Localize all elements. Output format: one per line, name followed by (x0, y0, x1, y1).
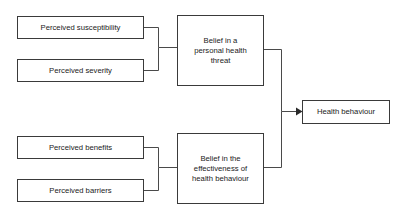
node-perceived-benefits[interactable]: Perceived benefits (18, 137, 144, 159)
node-perceived-barriers[interactable]: Perceived barriers (18, 180, 144, 202)
node-label-belief-effectiveness-line1: Belief in the (200, 154, 240, 163)
health-belief-model-diagram: Perceived susceptibility Perceived sever… (0, 0, 405, 224)
node-label-perceived-barriers: Perceived barriers (49, 186, 112, 195)
arrow-head-icon (296, 108, 303, 116)
node-label-perceived-benefits: Perceived benefits (49, 143, 112, 152)
node-health-behaviour[interactable]: Health behaviour (303, 101, 390, 124)
connector-severity-to-threat (144, 48, 159, 71)
node-label-perceived-severity: Perceived severity (49, 66, 112, 75)
node-perceived-severity[interactable]: Perceived severity (18, 60, 144, 82)
node-belief-effectiveness-health-behaviour[interactable]: Belief in the effectiveness of health be… (178, 134, 264, 204)
node-label-belief-effectiveness-line2: effectiveness of (194, 164, 248, 173)
node-label-belief-effectiveness-line3: health behaviour (192, 174, 249, 183)
node-label-perceived-susceptibility: Perceived susceptibility (41, 23, 121, 32)
node-perceived-susceptibility[interactable]: Perceived susceptibility (18, 17, 144, 39)
connector-effectiveness-to-behaviour (264, 112, 282, 168)
node-belief-personal-health-threat[interactable]: Belief in a personal health threat (178, 16, 264, 86)
connector-benefits-to-effectiveness (144, 148, 159, 168)
node-label-health-behaviour: Health behaviour (317, 107, 376, 116)
node-label-belief-threat-line3: threat (211, 56, 232, 65)
connector-barriers-to-effectiveness (144, 168, 159, 191)
connector-threat-to-behaviour (264, 50, 282, 112)
connector-susceptibility-to-threat (144, 28, 159, 48)
node-label-belief-threat-line2: personal health (194, 46, 247, 55)
node-label-belief-threat-line1: Belief in a (204, 36, 238, 45)
